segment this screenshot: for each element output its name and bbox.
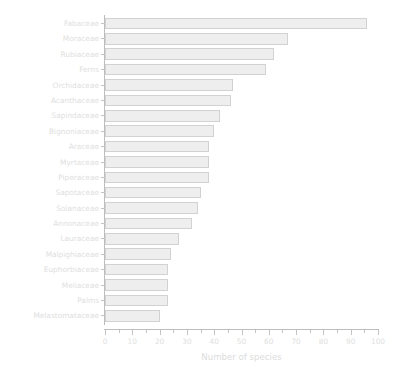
- x-tick-label: 60: [264, 337, 273, 346]
- x-tick-minor: [173, 330, 174, 333]
- category-label: Annonaceae: [53, 216, 99, 231]
- category-label: Solanaceae: [56, 201, 99, 216]
- x-tick-label: 100: [371, 337, 385, 346]
- category-label: Sapindaceae: [51, 108, 99, 123]
- bar-row: Orchidaceae: [105, 78, 378, 93]
- bar: [105, 202, 198, 214]
- bar: [105, 295, 168, 307]
- bar: [105, 95, 231, 107]
- bar: [105, 279, 168, 291]
- bar: [105, 233, 179, 245]
- x-tick-major: [351, 330, 352, 335]
- category-label: Malpighiaceae: [46, 247, 99, 262]
- bar-row: Euphorbiaceae: [105, 262, 378, 277]
- category-label: Myrtaceae: [60, 155, 99, 170]
- bar: [105, 264, 168, 276]
- bar-row: Sapotaceae: [105, 185, 378, 200]
- x-tick-minor: [310, 330, 311, 333]
- bar: [105, 172, 209, 184]
- x-tick-label: 0: [103, 337, 108, 346]
- x-axis-ticks: 0102030405060708090100: [105, 330, 378, 348]
- x-tick-major: [323, 330, 324, 335]
- x-tick-label: 50: [237, 337, 246, 346]
- category-label: Palms: [77, 293, 99, 308]
- category-label: Moraceae: [63, 31, 99, 46]
- bar: [105, 18, 367, 30]
- category-label: Bignoniaceae: [49, 124, 99, 139]
- category-label: Lauraceae: [60, 231, 99, 246]
- bar: [105, 310, 160, 322]
- x-tick-major: [269, 330, 270, 335]
- x-tick-minor: [119, 330, 120, 333]
- bar: [105, 156, 209, 168]
- category-label: Acanthaceae: [51, 93, 99, 108]
- x-tick-major: [132, 330, 133, 335]
- bar: [105, 64, 266, 76]
- category-label: Piperaceae: [58, 170, 99, 185]
- x-tick-major: [160, 330, 161, 335]
- x-tick-label: 20: [155, 337, 164, 346]
- bar-row: Annonaceae: [105, 216, 378, 231]
- bar-row: Moraceae: [105, 31, 378, 46]
- bar-row: Sapindaceae: [105, 108, 378, 123]
- bar-row: Fabaceae: [105, 16, 378, 31]
- bar: [105, 110, 220, 122]
- x-tick-minor: [255, 330, 256, 333]
- x-tick-major: [214, 330, 215, 335]
- x-tick-minor: [282, 330, 283, 333]
- x-tick-minor: [337, 330, 338, 333]
- x-tick-minor: [228, 330, 229, 333]
- plot-area: FabaceaeMoraceaeRubiaceaeFernsOrchidacea…: [105, 16, 378, 324]
- category-label: Melastomataceae: [33, 308, 99, 323]
- x-tick-minor: [146, 330, 147, 333]
- x-tick-minor: [201, 330, 202, 333]
- bar-row: Bignoniaceae: [105, 124, 378, 139]
- x-tick-minor: [364, 330, 365, 333]
- x-tick-label: 10: [128, 337, 137, 346]
- category-label: Orchidaceae: [53, 78, 99, 93]
- x-tick-label: 90: [346, 337, 355, 346]
- x-axis-title: Number of species: [105, 352, 378, 362]
- bar-row: Malpighiaceae: [105, 247, 378, 262]
- bar: [105, 125, 214, 137]
- bar-row: Araceae: [105, 139, 378, 154]
- bar: [105, 141, 209, 153]
- bar-rows: FabaceaeMoraceaeRubiaceaeFernsOrchidacea…: [105, 16, 378, 324]
- x-tick-label: 70: [291, 337, 300, 346]
- category-label: Araceae: [69, 139, 99, 154]
- category-label: Sapotaceae: [55, 185, 99, 200]
- bar: [105, 48, 274, 60]
- bar-row: Palms: [105, 293, 378, 308]
- bar-row: Melastomataceae: [105, 308, 378, 323]
- category-label: Euphorbiaceae: [44, 262, 99, 277]
- x-tick-label: 80: [319, 337, 328, 346]
- bar-row: Myrtaceae: [105, 155, 378, 170]
- bar: [105, 187, 201, 199]
- category-label: Fabaceae: [64, 16, 99, 31]
- bar: [105, 248, 171, 260]
- x-tick-major: [296, 330, 297, 335]
- x-tick-major: [105, 330, 106, 335]
- category-label: Ferns: [79, 62, 99, 77]
- x-tick-label: 30: [182, 337, 191, 346]
- x-tick-major: [242, 330, 243, 335]
- bar: [105, 33, 288, 45]
- bar-row: Rubiaceae: [105, 47, 378, 62]
- category-label: Meliaceae: [62, 278, 99, 293]
- x-tick-major: [187, 330, 188, 335]
- bar-row: Lauraceae: [105, 231, 378, 246]
- bar-row: Piperaceae: [105, 170, 378, 185]
- bar-row: Acanthaceae: [105, 93, 378, 108]
- bar-row: Ferns: [105, 62, 378, 77]
- bar-row: Solanaceae: [105, 201, 378, 216]
- species-bar-chart: FabaceaeMoraceaeRubiaceaeFernsOrchidacea…: [0, 0, 413, 381]
- x-tick-major: [378, 330, 379, 335]
- bar: [105, 79, 233, 91]
- x-tick-label: 40: [209, 337, 218, 346]
- bar-row: Meliaceae: [105, 278, 378, 293]
- category-label: Rubiaceae: [61, 47, 99, 62]
- bar: [105, 218, 192, 230]
